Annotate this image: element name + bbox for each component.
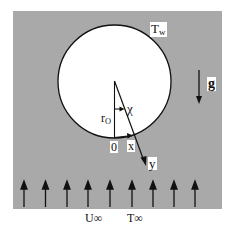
y-axis-label: y [148, 157, 157, 170]
freestream-temperature-label: T∞ [127, 212, 143, 224]
wall-temperature-label: Tw [150, 22, 167, 37]
x-axis-label: x [127, 140, 135, 152]
gravity-label: g [207, 77, 216, 91]
radius-label: rO [101, 112, 111, 126]
diagram-canvas [0, 0, 231, 238]
freestream-velocity-label: U∞ [85, 212, 102, 224]
origin-label: 0 [110, 141, 118, 153]
angle-label: χ [127, 102, 133, 115]
